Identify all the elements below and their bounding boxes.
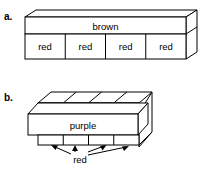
panel-a-cell-label: red xyxy=(159,41,173,52)
panel-a-block: brown red red red red xyxy=(25,10,197,59)
panel-a-right-face xyxy=(186,10,197,59)
panel-b-slab-top-face xyxy=(28,103,148,114)
panel-b-slab-label: purple xyxy=(70,120,96,131)
panel-a-cell-label: red xyxy=(38,41,52,52)
panel-a-brown-label: brown xyxy=(93,21,119,32)
panel-b-callout-arrows xyxy=(51,145,129,155)
callout-arrow-head xyxy=(72,145,78,151)
panel-b-callout-label: red xyxy=(73,154,87,165)
callout-arrow-head xyxy=(122,146,129,151)
diagram-svg: brown red red red red xyxy=(0,0,208,169)
panel-a-cell-label: red xyxy=(79,41,93,52)
panel-a-cell-label: red xyxy=(119,41,133,52)
callout-arrow-head xyxy=(100,145,107,151)
figure-root: a. b. brown red red red red xyxy=(0,0,208,169)
panel-b-block: purple xyxy=(28,92,152,165)
panel-a-top-face xyxy=(25,10,197,17)
callout-arrow-line xyxy=(88,147,126,155)
